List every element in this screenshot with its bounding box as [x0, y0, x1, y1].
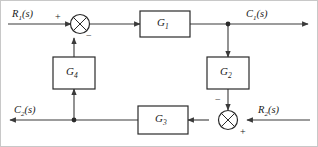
sign-minus-g2: −: [215, 95, 221, 105]
sign-minus-g4: −: [86, 31, 92, 41]
signal-label-c2: C2(s): [14, 105, 36, 118]
block-label-g1: G1: [157, 17, 169, 31]
summing-junction-bottom: [219, 111, 238, 130]
sign-plus-r1: +: [55, 12, 61, 22]
signal-label-r2: R2(s): [258, 105, 279, 118]
block-label-g2: G2: [220, 66, 232, 80]
block-label-g4: G4: [66, 66, 78, 80]
junction-dot-top-right: [226, 22, 231, 27]
block-diagram-figure: R1(s) C1(s) C2(s) R2(s) G1 G2 G3 G4 + − …: [0, 0, 318, 147]
sign-plus-r2: +: [240, 127, 246, 137]
junction-dot-bottom-left: [72, 118, 77, 123]
block-label-g3: G3: [155, 113, 167, 127]
signal-label-r1: R1(s): [12, 9, 33, 22]
signal-label-c1: C1(s): [246, 9, 268, 22]
